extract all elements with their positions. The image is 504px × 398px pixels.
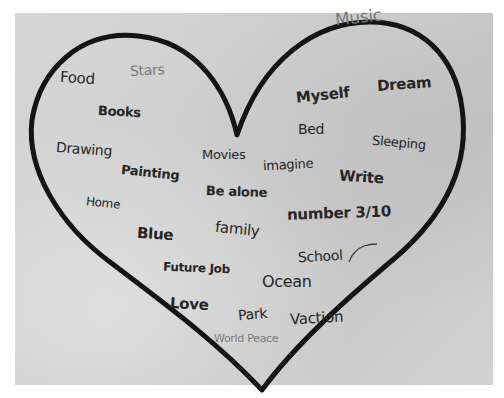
word-dream: Dream <box>377 75 432 94</box>
word-bed: Bed <box>298 122 324 136</box>
word-number-3-10: number 3/10 <box>287 204 391 223</box>
word-drawing: Drawing <box>56 140 113 158</box>
word-be-alone: Be alone <box>206 184 268 199</box>
word-ocean: Ocean <box>262 274 312 290</box>
word-park: Park <box>237 306 267 322</box>
word-stars: Stars <box>130 62 165 78</box>
word-world-peace: World Peace <box>214 333 278 344</box>
word-school: School <box>298 248 343 264</box>
word-books: Books <box>98 104 141 119</box>
word-future-job: Future Job <box>163 261 230 275</box>
word-write: Write <box>339 168 385 186</box>
word-home: Home <box>85 195 120 211</box>
word-family: family <box>214 220 260 240</box>
word-vaction: Vaction <box>290 310 344 328</box>
word-imagine: imagine <box>263 157 314 173</box>
word-movies: Movies <box>202 148 245 161</box>
word-music: Music <box>334 7 382 29</box>
word-love: Love <box>170 296 209 313</box>
squiggle-mark <box>349 244 377 262</box>
word-blue: Blue <box>137 226 174 243</box>
word-food: Food <box>60 70 96 87</box>
